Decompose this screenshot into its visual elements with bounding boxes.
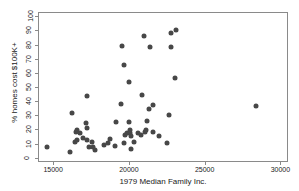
data-point xyxy=(126,80,131,85)
data-points-layer xyxy=(39,13,287,161)
y-tick-mark xyxy=(35,115,38,116)
x-tick-mark xyxy=(280,162,281,165)
y-tick-mark xyxy=(35,87,38,88)
x-tick-label: 15000 xyxy=(43,166,62,174)
data-point xyxy=(120,43,125,48)
data-point xyxy=(108,136,113,141)
data-point xyxy=(146,107,151,112)
y-tick-label-text: 40 xyxy=(25,97,33,105)
data-point xyxy=(121,141,126,146)
y-tick-label-text: 50 xyxy=(25,83,33,91)
data-point xyxy=(143,128,148,133)
y-tick-label-text: 30 xyxy=(25,111,33,119)
y-tick-label-text: 80 xyxy=(25,41,33,49)
x-tick-mark xyxy=(129,162,130,165)
y-tick-mark xyxy=(35,30,38,31)
x-tick-mark xyxy=(205,162,206,165)
data-point xyxy=(84,94,89,99)
data-point xyxy=(165,141,170,146)
data-point xyxy=(254,104,259,109)
x-tick-mark xyxy=(53,162,54,165)
data-point xyxy=(89,139,94,144)
data-point xyxy=(174,27,179,32)
y-tick-label-text: 90 xyxy=(25,26,33,34)
x-tick-label: 20000 xyxy=(119,166,138,174)
y-tick-mark xyxy=(35,73,38,74)
scatter-plot-figure: % homes cost $100K+ 1979 Median Family I… xyxy=(0,0,299,191)
y-tick-mark xyxy=(35,158,38,159)
data-point xyxy=(122,63,127,68)
data-point xyxy=(113,119,118,124)
data-point xyxy=(93,148,98,153)
y-tick-label-text: 60 xyxy=(25,69,33,77)
y-tick-label: 30 xyxy=(25,111,33,119)
data-point xyxy=(140,93,145,98)
data-point xyxy=(128,128,133,133)
data-point xyxy=(145,118,150,123)
data-point xyxy=(128,134,133,139)
y-tick-mark xyxy=(35,101,38,102)
data-point xyxy=(168,44,173,49)
y-tick-label-text: 0 xyxy=(23,156,31,160)
data-point xyxy=(141,33,146,38)
data-point xyxy=(119,101,124,106)
plot-area xyxy=(38,12,288,162)
data-point xyxy=(150,129,155,134)
y-axis-title: % homes cost $100K+ xyxy=(10,23,19,143)
y-tick-mark xyxy=(35,144,38,145)
x-axis-title: 1979 Median Family Inc. xyxy=(38,177,288,186)
y-tick-label: 20 xyxy=(25,125,33,133)
data-point xyxy=(150,102,155,107)
y-tick-label: 50 xyxy=(25,83,33,91)
y-tick-label: 90 xyxy=(25,26,33,34)
data-point xyxy=(75,138,80,143)
y-tick-label: 100 xyxy=(25,12,37,20)
y-tick-label: 60 xyxy=(25,69,33,77)
data-point xyxy=(147,44,152,49)
data-point xyxy=(85,125,90,130)
y-tick-label: 80 xyxy=(25,41,33,49)
y-tick-label: 10 xyxy=(25,140,33,148)
y-tick-mark xyxy=(35,45,38,46)
data-point xyxy=(106,141,111,146)
y-tick-label: 40 xyxy=(25,97,33,105)
y-tick-label-text: 10 xyxy=(25,140,33,148)
y-tick-mark xyxy=(35,129,38,130)
y-tick-mark xyxy=(35,59,38,60)
data-point xyxy=(112,144,117,149)
data-point xyxy=(156,134,161,139)
y-tick-label-text: 20 xyxy=(25,126,33,134)
y-tick-label-text: 100 xyxy=(27,10,35,22)
data-point xyxy=(172,76,177,81)
y-tick-label-text: 70 xyxy=(25,55,33,63)
y-tick-label: 70 xyxy=(25,55,33,63)
data-point xyxy=(67,149,72,154)
data-point xyxy=(69,111,74,116)
data-point xyxy=(129,146,134,151)
y-tick-label: 0 xyxy=(25,154,29,162)
data-point xyxy=(132,139,137,144)
x-tick-label: 30000 xyxy=(271,166,290,174)
data-point xyxy=(166,112,171,117)
data-point xyxy=(45,145,50,150)
data-point xyxy=(127,119,132,124)
x-tick-label: 25000 xyxy=(195,166,214,174)
